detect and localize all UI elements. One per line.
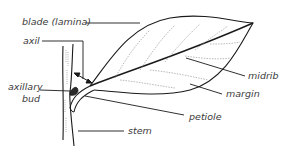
label-axillary-bud-line2: bud [22, 93, 40, 104]
label-stem: stem [128, 125, 152, 136]
label-axil: axil [23, 35, 40, 46]
leaf-diagram: blade (lamina) axil axillary bud stem mi… [0, 0, 286, 163]
label-blade: blade (lamina) [22, 16, 91, 27]
label-margin: margin [226, 88, 260, 99]
label-petiole: petiole [189, 111, 222, 122]
leaf-blade-drawing [90, 16, 253, 94]
petiole-leader-line [85, 96, 184, 115]
label-midrib: midrib [248, 70, 279, 81]
label-axillary-bud-line1: axillary [8, 81, 43, 92]
axillary-bud-leader-line [40, 90, 70, 91]
